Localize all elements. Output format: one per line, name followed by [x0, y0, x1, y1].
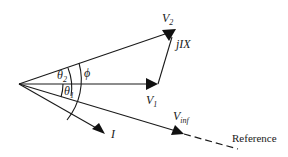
reference-dashed-line: [184, 134, 238, 149]
jix-phasor-line: [158, 37, 172, 84]
phi-label: ϕ: [84, 66, 90, 80]
jix-label: jIX: [174, 37, 191, 51]
i-label: I: [110, 127, 116, 141]
v2-phasor-line: [19, 33, 168, 84]
vinf-label: Vinf: [173, 109, 191, 125]
theta1-label: θ1: [64, 84, 74, 100]
v1-label: V1: [146, 93, 157, 109]
i-phasor-line: [19, 84, 98, 129]
v2-label: V2: [162, 11, 173, 27]
i-arrowhead: [92, 123, 105, 134]
v1-arrowhead: [146, 78, 158, 90]
theta1-arc-inner: [61, 84, 63, 97]
phasor-diagram: V2 jIX V1 I Vinf θ2 θ1 ϕ Reference: [0, 0, 288, 157]
v2-arrowhead: [162, 29, 176, 41]
theta2-label: θ2: [57, 68, 67, 84]
reference-label: Reference: [232, 132, 277, 144]
